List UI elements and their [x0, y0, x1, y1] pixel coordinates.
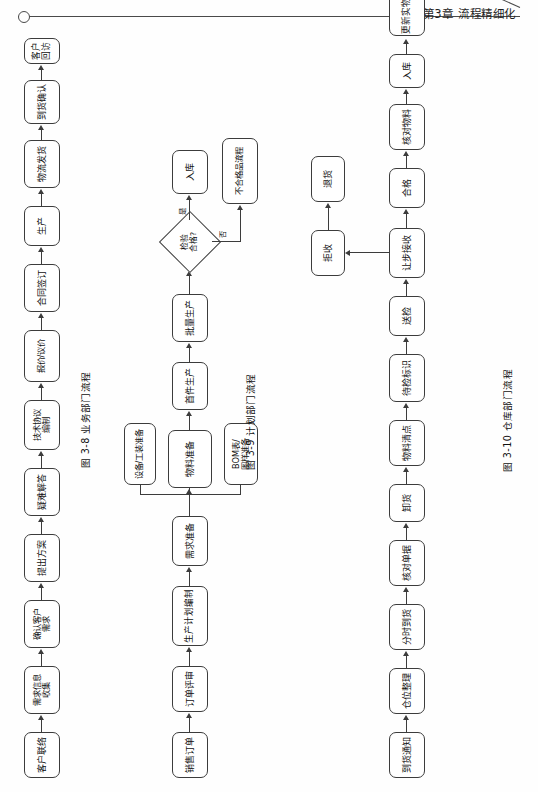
node-label: 合格 — [402, 178, 412, 198]
node-concession-acceptance[interactable]: 让步接收 — [389, 228, 425, 278]
node-confirm-customer-need[interactable]: 确认客户 需求 — [24, 600, 60, 648]
node-label: 待检标识 — [402, 359, 412, 397]
arrow-icon — [186, 195, 192, 200]
node-order-review[interactable]: 订单评审 — [172, 666, 208, 712]
node-material-count[interactable]: 物料清点 — [389, 420, 425, 466]
node-production-plan[interactable]: 生产计划编制 — [172, 586, 208, 646]
connector — [406, 718, 407, 732]
connector — [406, 470, 407, 484]
node-storage-tidy[interactable]: 仓位整理 — [389, 668, 425, 714]
node-stock-in[interactable]: 入库 — [389, 54, 425, 88]
node-propose-plan[interactable]: 提出方案 — [24, 534, 60, 582]
node-label: 客户回访 — [32, 39, 51, 63]
node-material-preparation[interactable]: 物料准备 — [168, 430, 212, 488]
node-label: 首件生产 — [185, 367, 195, 405]
arrow-icon — [403, 39, 409, 44]
connector — [41, 386, 42, 400]
connector — [349, 252, 389, 253]
node-technical-agreement[interactable]: 技术协议 编制 — [24, 400, 60, 450]
arrow-icon — [403, 337, 409, 342]
arrow-icon — [403, 209, 409, 214]
node-label: 核对单据 — [402, 544, 412, 582]
figure-3-9-caption: 图 3-9 计划部门流程 — [243, 373, 257, 470]
connector — [41, 586, 42, 600]
node-first-article-production[interactable]: 首件生产 — [172, 362, 208, 410]
arrow-icon — [237, 205, 243, 210]
arrow-icon — [38, 649, 44, 654]
connector — [41, 250, 42, 264]
figure-3-10: 到货通知 仓位整理 分时到货 核对单据 卸货 物料清点 待检标识 送检 — [385, 38, 495, 778]
node-production[interactable]: 生产 — [24, 206, 60, 246]
node-label: 仓位整理 — [402, 672, 412, 710]
node-pending-inspection-tag[interactable]: 待检标识 — [389, 354, 425, 402]
arrow-icon — [38, 247, 44, 252]
node-send-inspection[interactable]: 送检 — [389, 296, 425, 336]
node-sales-order[interactable]: 销售订单 — [172, 732, 208, 778]
node-label: 入库 — [402, 61, 412, 81]
arrow-icon — [403, 279, 409, 284]
connector — [41, 520, 42, 534]
node-contract-signing[interactable]: 合同签订 — [24, 264, 60, 312]
node-label: 疑难解答 — [37, 473, 47, 511]
arrow-icon — [38, 383, 44, 388]
circle-ornament-icon — [18, 11, 30, 23]
node-demand-preparation[interactable]: 需求准备 — [172, 516, 208, 566]
node-logistics-shipment[interactable]: 物流发货 — [24, 140, 60, 188]
node-label: 提出方案 — [37, 539, 47, 577]
node-label: 到货通知 — [402, 736, 412, 774]
node-batch-production[interactable]: 批量生产 — [172, 294, 208, 342]
node-label: 物流发货 — [37, 145, 47, 183]
node-label: 批量生产 — [185, 299, 195, 337]
node-label: 到货确认 — [37, 83, 47, 121]
node-verify-material[interactable]: 核对物料 — [389, 104, 425, 150]
node-qualified[interactable]: 合格 — [389, 168, 425, 208]
connector — [189, 570, 190, 586]
edge-label-no: 否 — [216, 231, 227, 238]
decision-label: 检验 合格? — [172, 220, 208, 264]
node-customer-followup[interactable]: 客户回访 — [24, 38, 60, 64]
node-troubleshooting[interactable]: 疑难解答 — [24, 468, 60, 516]
connector — [189, 650, 190, 666]
connector — [189, 488, 190, 506]
node-equipment-tooling-prep[interactable]: 设备/工装准备 — [124, 423, 156, 485]
node-requirement-collection[interactable]: 需求信息 收集 — [24, 666, 60, 714]
node-return-goods[interactable]: 退货 — [311, 156, 345, 202]
arrow-icon — [403, 587, 409, 592]
node-arrival-notice[interactable]: 到货通知 — [389, 732, 425, 778]
connector — [189, 716, 190, 732]
node-check-documents[interactable]: 核对单据 — [389, 540, 425, 586]
arrow-icon — [345, 250, 350, 256]
connector — [189, 274, 190, 294]
connector — [406, 526, 407, 540]
connector — [406, 590, 407, 604]
arrow-icon — [403, 523, 409, 528]
node-label: 入库 — [185, 162, 195, 182]
connector — [406, 340, 407, 354]
node-label: 确认客户 需求 — [33, 607, 52, 641]
figure-3-8-caption: 图 3-8 业务部门流程 — [78, 371, 92, 468]
node-label: 物料准备 — [185, 440, 195, 478]
node-timed-arrival[interactable]: 分时到货 — [389, 604, 425, 650]
connector — [41, 316, 42, 330]
node-delivery-confirm[interactable]: 到货确认 — [24, 80, 60, 124]
connector — [406, 654, 407, 668]
node-quotation-negotiation[interactable]: 报价/议价 — [24, 330, 60, 382]
node-label: 报价/议价 — [37, 338, 46, 375]
node-customer-contact[interactable]: 客户联络 — [24, 732, 60, 778]
node-nonconforming-flow[interactable]: 不合格品流程 — [222, 138, 258, 204]
connector — [406, 154, 407, 168]
node-label: 生产 — [37, 216, 47, 236]
arrow-icon — [38, 65, 44, 70]
node-label: 设备/工装准备 — [135, 428, 144, 481]
node-update-physical-card[interactable]: 更新实物卡 — [389, 0, 425, 36]
running-header: 第3章 流程精细化 — [0, 0, 538, 34]
node-label: 技术协议 编制 — [33, 408, 52, 442]
node-reject[interactable]: 拒收 — [311, 230, 345, 276]
connector — [41, 454, 42, 468]
node-unload[interactable]: 卸货 — [389, 484, 425, 522]
node-label: 销售订单 — [185, 736, 195, 774]
node-label: 更新实物卡 — [402, 0, 412, 35]
node-label: 物料清点 — [402, 424, 412, 462]
node-warehouse-in[interactable]: 入库 — [172, 150, 208, 194]
arrow-icon — [186, 343, 192, 348]
